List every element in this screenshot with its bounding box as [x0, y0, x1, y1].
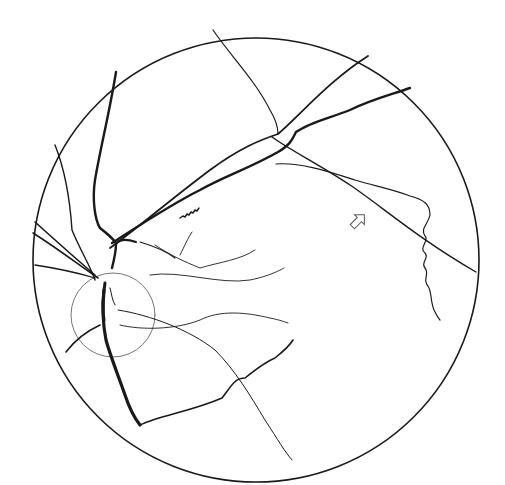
fundus-diagram	[0, 0, 505, 485]
fundus-drawing	[0, 0, 505, 485]
